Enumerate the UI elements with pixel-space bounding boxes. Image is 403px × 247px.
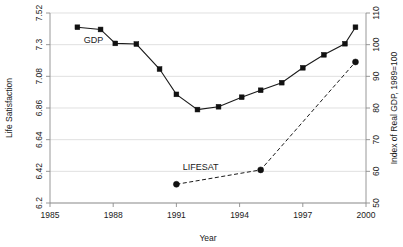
gdp-lifesat-line-chart: 198519881991199419972000 6.26.426.646.86… <box>0 0 403 247</box>
x-tick-label: 1994 <box>230 210 249 220</box>
data-point-marker <box>300 65 305 70</box>
y-right-axis-title: Index of Real GDP, 1989=100 <box>389 51 399 164</box>
x-tick-label: 1985 <box>41 210 60 220</box>
x-axis-title: Year <box>199 233 216 243</box>
y-left-tick-label: 6.64 <box>34 131 44 148</box>
y-right-tick-label: 50 <box>371 198 381 208</box>
x-tick-label: 2000 <box>357 210 376 220</box>
series-annotations-group: GDPLIFESAT <box>84 35 219 172</box>
y-left-tick-label: 7.52 <box>34 4 44 21</box>
data-point-marker <box>343 41 348 46</box>
y-left-tick-label: 7.08 <box>34 68 44 85</box>
data-point-marker <box>352 59 358 65</box>
y-right-tick-label: 80 <box>371 103 381 113</box>
data-point-marker <box>113 41 118 46</box>
series-annotation-lifesat: LIFESAT <box>183 162 219 172</box>
x-tick-label: 1997 <box>293 210 312 220</box>
y-left-tick-label: 6.42 <box>34 163 44 180</box>
y-right-tick-label: 70 <box>371 135 381 145</box>
y-right-tick-label: 90 <box>371 71 381 81</box>
data-point-marker <box>134 42 139 47</box>
x-tick-labels-group: 198519881991199419972000 <box>41 210 376 220</box>
data-point-marker <box>216 104 221 109</box>
data-point-marker <box>239 95 244 100</box>
y-right-tick-labels-group: 5060708090100110 <box>371 6 381 208</box>
data-point-marker <box>279 80 284 85</box>
y-left-axis-title: Life Satisfaction <box>4 78 14 138</box>
y-left-tick-label: 6.2 <box>34 197 44 209</box>
data-point-marker <box>258 167 264 173</box>
data-point-marker <box>321 52 326 57</box>
x-tick-label: 1988 <box>104 210 123 220</box>
y-right-tick-label: 60 <box>371 166 381 176</box>
data-point-marker <box>195 107 200 112</box>
y-right-tick-label: 100 <box>371 37 381 51</box>
data-point-marker <box>258 88 263 93</box>
data-point-marker <box>75 25 80 30</box>
y-right-tick-label: 110 <box>371 6 381 20</box>
y-left-tick-label: 6.86 <box>34 99 44 116</box>
chart-page: 198519881991199419972000 6.26.426.646.86… <box>0 0 403 247</box>
x-tick-label: 1991 <box>167 210 186 220</box>
data-point-marker <box>98 27 103 32</box>
data-point-marker <box>157 67 162 72</box>
y-left-tick-label: 7.3 <box>34 38 44 50</box>
data-point-marker <box>353 25 358 30</box>
y-left-tick-labels-group: 6.26.426.646.867.087.37.52 <box>34 4 44 208</box>
series-gdp-group <box>75 25 358 112</box>
data-point-marker <box>173 181 179 187</box>
data-point-marker <box>174 92 179 97</box>
series-annotation-gdp: GDP <box>84 35 104 45</box>
series-line-gdp <box>77 27 355 109</box>
